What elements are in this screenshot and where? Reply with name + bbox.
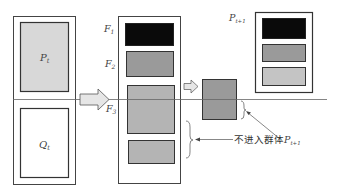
label-f1: F1 xyxy=(103,23,114,35)
front-f1-box xyxy=(126,24,174,46)
next-pop-f3-box xyxy=(263,68,306,86)
next-pop-f1-box xyxy=(263,19,306,39)
brace-large-icon xyxy=(186,121,193,158)
next-pop-f2-box xyxy=(263,45,306,62)
label-f3: F3 xyxy=(105,103,117,115)
rejected-front-box xyxy=(129,141,175,164)
big-arrow-icon xyxy=(80,89,109,110)
label-next-population: Pt+1 xyxy=(228,12,246,24)
annotation-text: 不进入群体Pt+1 xyxy=(234,134,301,146)
brace-small-icon xyxy=(241,101,246,119)
pointer-arrowhead-2 xyxy=(195,138,200,142)
small-arrow-icon xyxy=(184,80,198,93)
label-f2: F2 xyxy=(104,58,116,70)
front-f2-box xyxy=(127,52,174,77)
nsga-diagram: Pt Qt F1 F2 F3 Pt+1 不进入群体Pt+1 xyxy=(0,0,339,194)
front-f3-box xyxy=(128,86,175,134)
